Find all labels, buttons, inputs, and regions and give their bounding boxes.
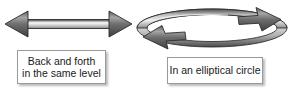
caption-box-back-and-forth: Back and forth in the same level: [17, 50, 106, 84]
caption-right-line-1: In an elliptical circle: [169, 64, 260, 76]
double-headed-arrow: [5, 11, 132, 37]
caption-left-line-1: Back and forth: [28, 55, 96, 67]
elliptical-loop-arrow: [137, 8, 287, 50]
caption-box-elliptical-circle: In an elliptical circle: [167, 57, 263, 84]
diagram-canvas: Back and forth in the same level In an e…: [0, 0, 292, 97]
caption-left-line-2: in the same level: [22, 67, 101, 79]
